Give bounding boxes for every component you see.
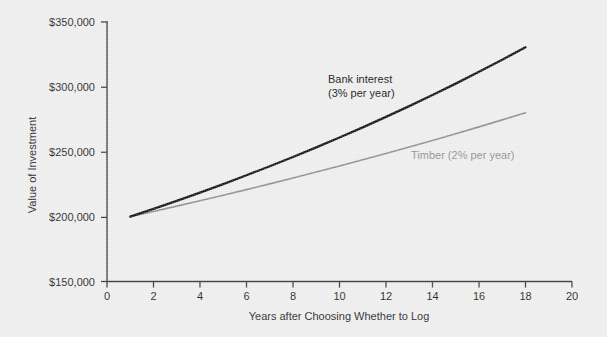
y-tick-label-200000: $200,000 (49, 211, 95, 223)
timber-series-line (130, 113, 525, 217)
x-tick-label-16: 16 (473, 290, 485, 302)
bank-interest-annotation-line2: (3% per year) (328, 87, 395, 99)
y-axis-title: Value of Investment (26, 117, 38, 213)
investment-comparison-chart: $350,000 $300,000 $250,000 $200,000 $150… (0, 0, 607, 337)
x-tick-label-6: 6 (243, 290, 249, 302)
y-axis-ticks (101, 22, 107, 282)
x-tick-label-14: 14 (426, 290, 438, 302)
y-tick-label-300000: $300,000 (49, 81, 95, 93)
x-tick-label-18: 18 (519, 290, 531, 302)
x-tick-label-10: 10 (333, 290, 345, 302)
x-tick-label-8: 8 (290, 290, 296, 302)
x-tick-label-20: 20 (566, 290, 578, 302)
y-tick-label-350000: $350,000 (49, 16, 95, 28)
x-axis-title: Years after Choosing Whether to Log (249, 310, 430, 322)
x-tick-label-12: 12 (380, 290, 392, 302)
chart-canvas: $350,000 $300,000 $250,000 $200,000 $150… (0, 0, 607, 337)
timber-annotation-line1: Timber (2% per year) (411, 149, 515, 161)
x-axis-ticks (107, 282, 572, 288)
bank-interest-annotation-line1: Bank interest (328, 73, 392, 85)
x-tick-label-0: 0 (104, 290, 110, 302)
y-tick-label-250000: $250,000 (49, 146, 95, 158)
x-tick-label-4: 4 (197, 290, 203, 302)
x-tick-label-2: 2 (150, 290, 156, 302)
y-tick-label-150000: $150,000 (49, 276, 95, 288)
